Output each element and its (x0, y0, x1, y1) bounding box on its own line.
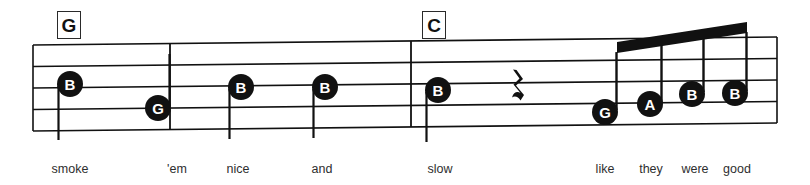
notehead-b-9[interactable]: B (722, 80, 748, 106)
staff-line-5 (33, 123, 777, 131)
lyric-syllable: like (596, 163, 615, 176)
quarter-rest-icon (512, 70, 524, 101)
lyric-syllable: smoke (52, 163, 89, 176)
staff-line-3 (33, 80, 777, 88)
staff-line-2 (33, 59, 777, 67)
lyric-syllable: were (681, 163, 708, 176)
notehead-g-6[interactable]: G (592, 99, 618, 125)
notehead-a-7[interactable]: A (637, 91, 663, 117)
lyric-syllable: nice (227, 163, 250, 176)
notehead-b-4[interactable]: B (312, 74, 338, 100)
chord-symbol-c[interactable]: C (422, 11, 446, 39)
notehead-g-2[interactable]: G (145, 95, 171, 121)
notehead-b-3[interactable]: B (228, 74, 254, 100)
lyric-syllable: slow (427, 163, 452, 176)
quarter-rest-glyph (512, 70, 524, 101)
lyric-syllable: good (723, 163, 751, 176)
lyric-syllable: and (312, 163, 333, 176)
notehead-b-5[interactable]: B (425, 77, 451, 103)
lyric-syllable: 'em (167, 163, 187, 176)
chord-symbol-g[interactable]: G (57, 11, 81, 39)
lyric-syllable: they (639, 163, 663, 176)
music-notation-sheet: G C BGBBBGABBsmoke'emniceandslowlikethey… (0, 0, 810, 185)
notehead-b-8[interactable]: B (679, 81, 705, 107)
notehead-b-1[interactable]: B (57, 71, 83, 97)
